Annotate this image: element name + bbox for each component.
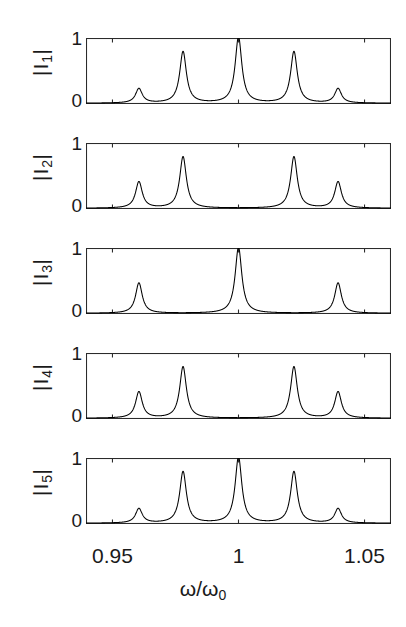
y-axis-label-text: |I1| — [30, 47, 54, 75]
y-axis-label-text: |I2| — [30, 152, 54, 180]
current-symbol: I — [29, 483, 52, 489]
x-axis-tick-labels: 0.9511.05 — [0, 545, 406, 575]
y-tick-label-top: 1 — [60, 344, 82, 363]
plot-frame — [87, 249, 391, 314]
abs-bar-right: | — [29, 47, 52, 53]
current-index: 1 — [39, 54, 55, 62]
current-symbol: I — [29, 63, 52, 69]
spectrum-plot — [86, 38, 391, 104]
panel-i3: |I3|10 — [0, 219, 406, 324]
plot-frame — [87, 354, 391, 419]
spectrum-plot — [86, 143, 391, 209]
spectrum-curve — [86, 366, 391, 418]
y-axis-ticks-1: 10 — [56, 9, 82, 114]
plot-frame — [87, 459, 391, 524]
current-index: 2 — [39, 159, 55, 167]
x-axis-title: ω/ω0 — [0, 578, 406, 602]
abs-bar-left: | — [29, 279, 52, 285]
y-tick-label-top: 1 — [60, 29, 82, 48]
spectrum-curve — [86, 458, 391, 523]
y-axis-label-text: |I4| — [30, 362, 54, 390]
abs-bar-right: | — [29, 467, 52, 473]
plot-area-2 — [86, 143, 391, 209]
y-axis-ticks-3: 10 — [56, 219, 82, 324]
x-axis-title-subscript: 0 — [218, 587, 226, 603]
y-tick-label-top: 1 — [60, 239, 82, 258]
x-tick-label: 0.95 — [92, 545, 133, 566]
abs-bar-left: | — [29, 69, 52, 75]
y-axis-ticks-5: 10 — [56, 429, 82, 534]
y-axis-label-text: |I3| — [30, 257, 54, 285]
spectrum-curve — [86, 38, 391, 103]
y-tick-label-bottom: 0 — [60, 196, 82, 215]
panel-i4: |I4|10 — [0, 324, 406, 429]
resonance-spectra-figure: |I1|10|I2|10|I3|10|I4|10|I5|10 0.9511.05… — [0, 0, 406, 627]
x-tick-label: 1 — [233, 545, 245, 566]
y-tick-label-bottom: 0 — [60, 511, 82, 530]
y-tick-label-bottom: 0 — [60, 406, 82, 425]
panel-i5: |I5|10 — [0, 429, 406, 534]
y-axis-ticks-4: 10 — [56, 324, 82, 429]
current-symbol: I — [29, 168, 52, 174]
abs-bar-right: | — [29, 257, 52, 263]
abs-bar-right: | — [29, 152, 52, 158]
plot-area-1 — [86, 38, 391, 104]
panel-i2: |I2|10 — [0, 114, 406, 219]
panel-i1: |I1|10 — [0, 9, 406, 114]
spectrum-plot — [86, 353, 391, 419]
spectrum-plot — [86, 248, 391, 314]
x-axis-title-main: ω/ω — [180, 577, 219, 600]
current-index: 5 — [39, 474, 55, 482]
current-symbol: I — [29, 273, 52, 279]
y-tick-label-bottom: 0 — [60, 91, 82, 110]
current-index: 4 — [39, 369, 55, 377]
abs-bar-left: | — [29, 174, 52, 180]
plot-area-4 — [86, 353, 391, 419]
plot-area-3 — [86, 248, 391, 314]
abs-bar-left: | — [29, 384, 52, 390]
plot-frame — [87, 144, 391, 209]
spectrum-curve — [86, 248, 391, 313]
y-axis-label-text: |I5| — [30, 467, 54, 495]
current-index: 3 — [39, 264, 55, 272]
y-tick-label-top: 1 — [60, 449, 82, 468]
y-tick-label-bottom: 0 — [60, 301, 82, 320]
abs-bar-right: | — [29, 362, 52, 368]
y-tick-label-top: 1 — [60, 134, 82, 153]
spectrum-plot — [86, 458, 391, 524]
y-axis-ticks-2: 10 — [56, 114, 82, 219]
plot-frame — [87, 39, 391, 104]
current-symbol: I — [29, 378, 52, 384]
x-tick-label: 1.05 — [344, 545, 385, 566]
plot-area-5 — [86, 458, 391, 524]
spectrum-curve — [86, 156, 391, 208]
abs-bar-left: | — [29, 489, 52, 495]
